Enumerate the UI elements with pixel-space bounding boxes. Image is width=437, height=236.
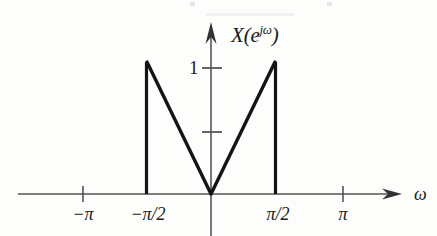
signal-rising-ramp (211, 62, 275, 194)
x-tick-label-pi: π (338, 205, 347, 223)
x-axis-name-label: ω (414, 185, 427, 203)
x-tick-label-neg-pi: −π (72, 205, 93, 223)
y-axis-title-close: ) (272, 23, 279, 47)
y-axis-title: X(ejω) (231, 23, 279, 46)
plot-canvas (0, 0, 437, 236)
x-tick-label-neg-half-pi: −π/2 (130, 205, 165, 223)
y-tick-label-one: 1 (189, 58, 199, 77)
signal-falling-ramp (147, 62, 211, 194)
tick-marks-group (83, 68, 343, 202)
y-axis-title-exponent: jω (260, 22, 272, 37)
spectrum-figure: X(ejω) 1 −π −π/2 π/2 π ω (0, 0, 437, 236)
x-tick-label-half-pi: π/2 (266, 205, 289, 223)
y-axis-title-main: X(e (231, 23, 260, 47)
